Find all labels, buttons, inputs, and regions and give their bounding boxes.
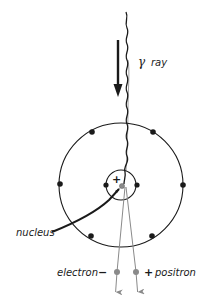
electron-track: [114, 187, 125, 292]
electron-dot-icon: [57, 181, 63, 187]
nucleus-charge-sign: +: [112, 173, 121, 186]
nucleus-pointer-line: [52, 189, 119, 232]
electron-dot-icon: [134, 182, 139, 187]
gamma-direction-arrow-icon: [114, 40, 123, 97]
electron-label: electron: [57, 267, 98, 278]
electron-sign: −: [98, 266, 107, 279]
gamma-ray-wave: [124, 12, 129, 184]
positron-track: [126, 187, 139, 292]
electron-particle-icon: [114, 269, 120, 275]
electron-dot-icon: [88, 233, 94, 239]
positron-particle-icon: [133, 269, 139, 275]
gamma-ray-label: γ ray: [138, 55, 168, 69]
electron-dot-icon: [103, 182, 108, 187]
pair-production-diagram: γ ray + nucleus electron − + pos: [0, 0, 203, 301]
electron-dot-icon: [150, 129, 156, 135]
positron-sign: +: [144, 266, 153, 279]
electron-dot-icon: [89, 129, 95, 135]
nucleus-label: nucleus: [16, 227, 55, 238]
electron-dot-icon: [149, 233, 155, 239]
positron-label: positron: [154, 267, 196, 278]
electron-dot-icon: [180, 182, 186, 188]
